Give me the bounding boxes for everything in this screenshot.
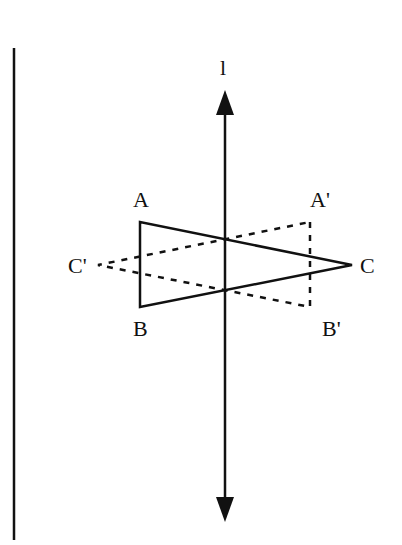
label-b-prime: B' (322, 316, 341, 341)
axis-label-l: l (220, 55, 226, 80)
label-a-prime: A' (310, 187, 330, 212)
label-c: C (360, 253, 375, 278)
arrow-up-icon (216, 90, 234, 115)
triangle-abc (140, 222, 352, 307)
arrow-down-icon (216, 497, 234, 522)
label-c-prime: C' (68, 253, 87, 278)
reflection-diagram: l A B C A' B' C' (0, 0, 402, 545)
label-a: A (133, 187, 149, 212)
label-b: B (133, 316, 148, 341)
